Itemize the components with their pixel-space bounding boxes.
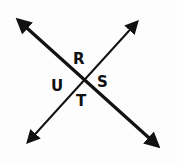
intersecting-lines-diagram: R S T U [0, 0, 177, 165]
angle-label-t: T [76, 92, 87, 110]
angle-label-u: U [51, 77, 63, 95]
angle-label-r: R [73, 50, 85, 68]
line-1-thick [18, 20, 158, 146]
line-2-thin [28, 22, 137, 142]
diagram-canvas: R S T U [0, 0, 177, 165]
angle-label-s: S [97, 73, 108, 91]
